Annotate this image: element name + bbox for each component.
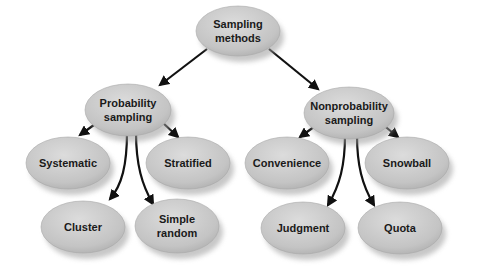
- node-label: sampling: [104, 111, 152, 123]
- node-label: Convenience: [253, 157, 321, 169]
- node-stratified: Stratified: [146, 137, 234, 195]
- node-cluster: Cluster: [41, 201, 129, 259]
- node-prob: Probabilitysampling: [85, 84, 175, 142]
- edge-root-to-nonprob: [269, 49, 318, 89]
- node-simple: Simplerandom: [135, 199, 223, 259]
- node-label: Cluster: [64, 221, 103, 233]
- node-label: Snowball: [383, 157, 431, 169]
- node-ellipse: [135, 199, 219, 253]
- node-convenience: Convenience: [245, 137, 333, 195]
- nodes-layer: SamplingmethodsProbabilitysamplingNonpro…: [26, 6, 453, 260]
- node-judgment: Judgment: [261, 202, 349, 260]
- node-ellipse: [85, 84, 171, 136]
- node-label: Simple: [159, 213, 195, 225]
- node-label: Quota: [384, 222, 417, 234]
- node-label: Nonprobability: [310, 100, 388, 112]
- sampling-methods-diagram: SamplingmethodsProbabilitysamplingNonpro…: [0, 0, 479, 272]
- node-nonprob: Nonprobabilitysampling: [304, 87, 398, 145]
- edge-root-to-prob: [160, 49, 207, 85]
- node-ellipse: [304, 87, 394, 139]
- node-label: Probability: [100, 97, 158, 109]
- node-label: methods: [215, 32, 261, 44]
- node-label: Systematic: [39, 157, 97, 169]
- node-label: sampling: [325, 114, 373, 126]
- node-snowball: Snowball: [365, 137, 453, 195]
- node-label: Stratified: [164, 157, 212, 169]
- node-label: random: [157, 227, 198, 239]
- node-root: Samplingmethods: [196, 6, 284, 62]
- node-label: Sampling: [213, 18, 263, 30]
- node-quota: Quota: [358, 202, 446, 260]
- node-label: Judgment: [277, 222, 330, 234]
- node-systematic: Systematic: [26, 137, 114, 195]
- node-ellipse: [196, 6, 280, 56]
